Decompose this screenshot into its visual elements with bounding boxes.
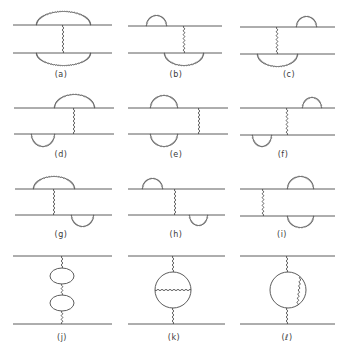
lower-self-energy-loop [150, 134, 178, 147]
lower-self-energy-loop [31, 134, 55, 147]
upper-self-energy-loop [287, 176, 314, 189]
diagram-panel-f [240, 97, 335, 147]
exchange-photon-line [276, 27, 278, 54]
panel-label-l: (ℓ) [281, 333, 292, 342]
panel-label-e: (e) [170, 150, 183, 159]
diagram-canvas [0, 0, 353, 359]
lower-self-energy-loop [287, 216, 314, 228]
upper-self-energy-loop [54, 94, 95, 108]
upper-self-energy-loop [142, 178, 163, 189]
upper-self-energy-loop [150, 95, 178, 108]
exchange-photon-segment [172, 256, 174, 272]
exchange-photon-line [183, 26, 185, 53]
diagram-panel-d [14, 94, 114, 147]
diagram-panel-h [128, 178, 225, 226]
lower-self-energy-loop [257, 54, 298, 67]
diagram-panel-j [13, 256, 112, 324]
diagram-panel-i [240, 176, 335, 228]
upper-self-energy-loop [36, 11, 91, 25]
lower-self-energy-loop [252, 135, 272, 147]
exchange-photon-segment [286, 308, 288, 324]
exchange-photon-line [262, 189, 264, 216]
upper-self-energy-loop [146, 15, 167, 26]
exchange-photon-line [53, 189, 55, 215]
exchange-photon-segment [61, 256, 63, 268]
upper-self-energy-loop [296, 16, 317, 27]
diagram-panel-k [128, 256, 225, 324]
diagram-panel-a [13, 11, 112, 66]
exchange-photon-segment [286, 256, 288, 272]
upper-self-energy-loop [33, 176, 75, 189]
diagram-panel-l [240, 256, 335, 324]
feynman-diagram-figure: (a) (b) (c) (d) (e) (f) (g) (h) (i) (j) … [0, 0, 353, 359]
panel-label-g: (g) [55, 230, 68, 239]
internal-photon-line [155, 289, 191, 290]
panel-label-c: (c) [283, 70, 295, 79]
panel-label-j: (j) [57, 333, 67, 342]
panel-label-b: (b) [170, 70, 183, 79]
exchange-photon-line [174, 189, 176, 215]
internal-photon-line [297, 277, 301, 306]
diagram-panel-g [15, 176, 112, 227]
panel-label-a: (a) [55, 70, 68, 79]
exchange-photon-line [198, 108, 200, 134]
vacuum-polarization-bubble [50, 295, 74, 311]
exchange-photon-segment [61, 284, 63, 295]
panel-label-k: (k) [168, 333, 180, 342]
exchange-photon-line [62, 25, 64, 53]
exchange-photon-segment [172, 308, 174, 324]
panel-label-h: (h) [170, 230, 183, 239]
lower-self-energy-loop [164, 53, 204, 66]
vacuum-polarization-bubble [50, 268, 74, 284]
diagram-panel-c [240, 16, 335, 67]
lower-self-energy-loop [71, 215, 94, 227]
panel-label-d: (d) [55, 150, 68, 159]
exchange-photon-line [73, 108, 75, 134]
diagram-panel-b [128, 15, 222, 66]
vacuum-polarization-loop [270, 272, 306, 308]
lower-self-energy-loop [36, 53, 91, 66]
panel-label-i: (i) [277, 230, 287, 239]
panel-label-f: (f) [278, 150, 289, 159]
exchange-photon-segment [61, 311, 63, 324]
diagram-panel-e [128, 95, 228, 147]
exchange-photon-line [286, 108, 288, 135]
lower-self-energy-loop [189, 215, 208, 226]
upper-self-energy-loop [302, 97, 322, 108]
